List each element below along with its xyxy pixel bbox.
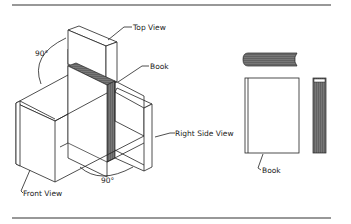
label-book-bottom: Book: [262, 166, 281, 175]
orthographic-projection-diagram: Top View Book Right Side View Front View…: [0, 0, 351, 224]
front-view-panel: [16, 101, 55, 182]
right-side-view-panel: [115, 81, 152, 171]
label-angle-bottom: 90°: [101, 176, 115, 185]
book-side-view: [313, 78, 326, 153]
book-front-view: [245, 78, 299, 153]
label-front-view: Front View: [23, 189, 62, 198]
angle-arc-top: [38, 38, 66, 84]
book-top-view: [243, 53, 297, 66]
leader-book-top: [118, 66, 149, 82]
label-top-view: Top View: [132, 23, 166, 32]
orthographic-views: [243, 53, 326, 170]
label-right-side-view: Right Side View: [175, 129, 234, 138]
leader-top-view: [108, 27, 132, 40]
leader-right-side: [155, 133, 175, 137]
label-angle-top: 90°: [35, 49, 49, 58]
label-book-top: Book: [150, 62, 169, 71]
